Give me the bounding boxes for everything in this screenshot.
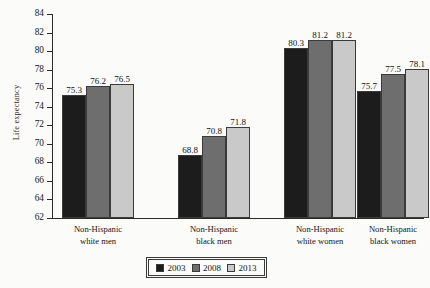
bar: 81.2 bbox=[332, 40, 356, 218]
y-axis-line bbox=[52, 14, 53, 219]
x-category-label: Non-Hispanicwhite men bbox=[53, 224, 143, 247]
y-tick-label: 68 bbox=[35, 155, 44, 168]
y-tick: 74 bbox=[47, 107, 52, 108]
bar: 76.2 bbox=[86, 86, 110, 218]
bar-value-label: 77.5 bbox=[385, 64, 401, 74]
legend-item[interactable]: 2013 bbox=[227, 263, 257, 273]
bar: 80.3 bbox=[284, 48, 308, 218]
bar-group: 75.777.578.1 bbox=[357, 14, 429, 218]
y-tick-label: 78 bbox=[35, 63, 44, 76]
bar-chart: Life expectancy 848280787674727068666462… bbox=[0, 0, 430, 288]
bar: 78.1 bbox=[405, 69, 429, 218]
bar-group: 80.381.281.2 bbox=[284, 14, 356, 218]
y-tick: 62 bbox=[47, 218, 52, 219]
y-tick: 80 bbox=[47, 51, 52, 52]
legend-label: 2013 bbox=[239, 263, 257, 273]
y-tick: 68 bbox=[47, 162, 52, 163]
bar-value-label: 70.8 bbox=[206, 126, 222, 136]
x-category-label-line: Non-Hispanic bbox=[169, 224, 259, 236]
bar-value-label: 76.2 bbox=[90, 76, 106, 86]
x-category-label-line: black men bbox=[169, 236, 259, 248]
bar-value-label: 75.7 bbox=[361, 81, 377, 91]
y-tick: 76 bbox=[47, 88, 52, 89]
legend-swatch-icon bbox=[156, 264, 164, 272]
legend-label: 2003 bbox=[168, 263, 186, 273]
y-tick-label: 70 bbox=[35, 137, 44, 150]
bar-group: 75.376.276.5 bbox=[62, 14, 134, 218]
bar-value-label: 75.3 bbox=[66, 85, 82, 95]
bar: 76.5 bbox=[110, 84, 134, 218]
y-tick-label: 74 bbox=[35, 100, 44, 113]
legend-swatch-icon bbox=[192, 264, 200, 272]
y-tick-label: 64 bbox=[35, 192, 44, 205]
x-category-label-line: Non-Hispanic bbox=[348, 224, 430, 236]
chart-legend: 200320082013 bbox=[148, 259, 265, 276]
y-tick-label: 72 bbox=[35, 118, 44, 131]
bar: 70.8 bbox=[202, 136, 226, 218]
y-tick-label: 66 bbox=[35, 174, 44, 187]
y-tick: 72 bbox=[47, 125, 52, 126]
y-tick: 78 bbox=[47, 70, 52, 71]
x-axis-line bbox=[52, 218, 424, 219]
legend-label: 2008 bbox=[203, 263, 221, 273]
bar: 81.2 bbox=[308, 40, 332, 218]
x-category-label: Non-Hispanicblack women bbox=[348, 224, 430, 247]
bar: 75.3 bbox=[62, 95, 86, 218]
bar-value-label: 68.8 bbox=[182, 145, 198, 155]
bar-value-label: 81.2 bbox=[336, 30, 352, 40]
y-tick-label: 80 bbox=[35, 44, 44, 57]
x-category-label-line: black women bbox=[348, 236, 430, 248]
y-tick: 82 bbox=[47, 33, 52, 34]
legend-swatch-icon bbox=[227, 264, 235, 272]
bar-value-label: 78.1 bbox=[409, 59, 425, 69]
bar-value-label: 76.5 bbox=[114, 74, 130, 84]
x-category-label-line: white men bbox=[53, 236, 143, 248]
bar-value-label: 71.8 bbox=[230, 117, 246, 127]
y-tick-label: 76 bbox=[35, 81, 44, 94]
bar: 75.7 bbox=[357, 91, 381, 218]
y-tick-label: 82 bbox=[35, 26, 44, 39]
bar: 68.8 bbox=[178, 155, 202, 218]
y-tick: 84 bbox=[47, 14, 52, 15]
bar-value-label: 81.2 bbox=[312, 30, 328, 40]
bar-value-label: 80.3 bbox=[288, 38, 304, 48]
x-category-label-line: Non-Hispanic bbox=[53, 224, 143, 236]
bar-group: 68.870.871.8 bbox=[178, 14, 250, 218]
plot-area: 848280787674727068666462 75.376.276.568.… bbox=[52, 14, 424, 219]
y-tick-label: 62 bbox=[35, 211, 44, 224]
y-tick: 70 bbox=[47, 144, 52, 145]
y-tick-label: 84 bbox=[35, 7, 44, 20]
legend-item[interactable]: 2003 bbox=[156, 263, 186, 273]
legend-item[interactable]: 2008 bbox=[192, 263, 222, 273]
x-category-label: Non-Hispanicblack men bbox=[169, 224, 259, 247]
y-axis-title: Life expectancy bbox=[12, 58, 21, 168]
bar: 77.5 bbox=[381, 74, 405, 218]
y-tick: 66 bbox=[47, 181, 52, 182]
y-tick: 64 bbox=[47, 199, 52, 200]
bar: 71.8 bbox=[226, 127, 250, 218]
